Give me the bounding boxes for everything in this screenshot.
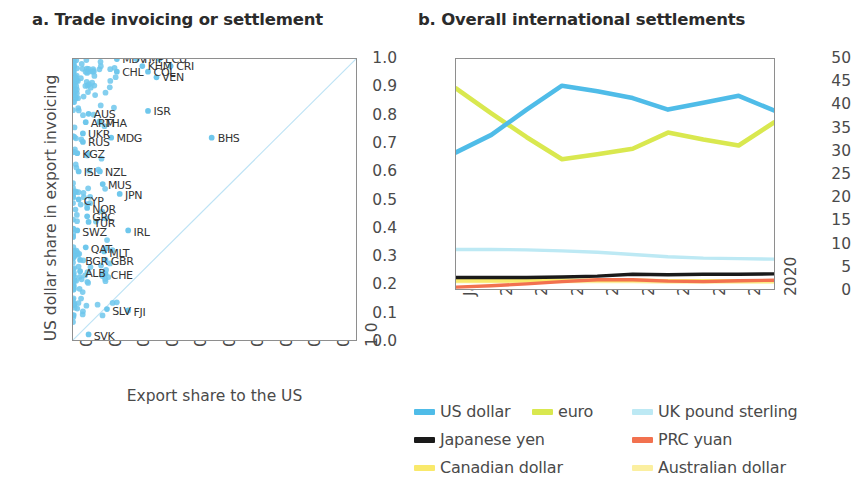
legend-item-prc-yuan[interactable]: PRC yuan — [632, 430, 732, 449]
panel-b-legend: US dollareuroUK pound sterlingJapanese y… — [414, 402, 779, 486]
scatter-point — [76, 300, 82, 306]
panel-a-y-axis-title: US dollar share in export invoicing — [42, 58, 60, 358]
scatter-point — [77, 257, 83, 263]
panel-b-x-tick: 2020 — [782, 257, 800, 296]
scatter-point — [80, 131, 86, 137]
scatter-point-label: FJI — [134, 306, 146, 319]
scatter-point — [117, 191, 123, 197]
scatter-point-label: GBR — [111, 255, 134, 268]
panel-a-x-axis-title: Export share to the US — [72, 387, 357, 405]
scatter-point — [73, 195, 76, 201]
legend-row: Canadian dollarAustralian dollar — [414, 458, 779, 486]
scatter-point — [73, 180, 76, 186]
line-series-group — [456, 86, 774, 287]
scatter-point — [85, 280, 91, 286]
scatter-point — [98, 63, 104, 69]
scatter-point — [107, 84, 113, 90]
scatter-point-label: JPN — [125, 188, 142, 201]
scatter-point — [100, 181, 106, 187]
scatter-point — [85, 89, 91, 95]
scatter-point-label: ISR — [154, 105, 171, 118]
scatter-point — [78, 75, 84, 81]
scatter-point — [83, 119, 89, 125]
scatter-point — [107, 78, 113, 84]
scatter-point — [85, 185, 91, 191]
scatter-point — [73, 207, 78, 213]
panel-b-line-svg — [456, 59, 774, 289]
scatter-point-label: CHL — [122, 65, 143, 78]
scatter-point — [209, 135, 215, 141]
legend-item-australian-dollar[interactable]: Australian dollar — [632, 458, 786, 477]
scatter-point-label: CHE — [111, 269, 133, 282]
panel-b-title: b. Overall international settlements — [418, 10, 745, 29]
scatter-point — [125, 228, 131, 234]
scatter-point — [77, 286, 83, 292]
panel-b-y-tick: 45 — [803, 72, 851, 90]
panel-b-y-tick: 5 — [803, 258, 851, 276]
legend-swatch-icon — [414, 437, 435, 443]
panel-b-international-settlements: b. Overall international settlements 504… — [400, 0, 779, 493]
scatter-point-label: ALB — [85, 266, 105, 279]
scatter-point — [83, 59, 89, 63]
panel-b-plot-area — [455, 58, 775, 290]
scatter-point — [84, 213, 90, 219]
legend-label: Japanese yen — [440, 430, 545, 449]
legend-label: US dollar — [440, 402, 510, 421]
scatter-point — [92, 92, 98, 98]
panel-b-y-tick: 20 — [803, 188, 851, 206]
scatter-point — [74, 218, 80, 224]
scatter-point — [83, 83, 89, 89]
scatter-point-label: IRL — [134, 225, 150, 238]
scatter-point — [103, 90, 109, 96]
scatter-point — [80, 139, 86, 145]
scatter-point-label: KGZ — [82, 147, 104, 160]
scatter-point — [90, 68, 96, 74]
legend-item-japanese-yen[interactable]: Japanese yen — [414, 430, 545, 449]
scatter-point — [79, 61, 85, 67]
scatter-point-label: SLV — [112, 304, 131, 317]
scatter-point-label: MDG — [116, 132, 142, 145]
scatter-point — [114, 69, 120, 75]
diagonal-reference-line — [73, 59, 356, 340]
scatter-point — [104, 306, 110, 312]
legend-swatch-icon — [632, 409, 653, 415]
panel-b-y-tick: 50 — [803, 49, 851, 67]
legend-item-euro[interactable]: euro — [532, 402, 593, 421]
legend-item-uk-pound-sterling[interactable]: UK pound sterling — [632, 402, 798, 421]
scatter-point — [73, 162, 79, 168]
legend-row: Japanese yenPRC yuan — [414, 430, 779, 458]
scatter-point — [114, 59, 120, 62]
legend-label: UK pound sterling — [658, 402, 798, 421]
scatter-point — [79, 276, 85, 282]
panel-a-trade-invoicing: a. Trade invoicing or settlement US doll… — [0, 0, 400, 493]
scatter-point — [76, 108, 82, 114]
scatter-point-label: BHS — [218, 132, 240, 145]
legend-row: US dollareuroUK pound sterling — [414, 402, 779, 430]
scatter-point — [86, 332, 92, 338]
scatter-point — [83, 244, 89, 250]
scatter-point — [107, 66, 113, 72]
scatter-point — [74, 306, 80, 312]
panel-b-y-tick: 0 — [803, 281, 851, 299]
legend-swatch-icon — [632, 437, 653, 443]
legend-label: Canadian dollar — [440, 458, 563, 477]
scatter-point — [81, 94, 87, 100]
panel-a-title: a. Trade invoicing or settlement — [32, 10, 323, 29]
scatter-point — [83, 69, 89, 75]
scatter-point — [103, 278, 109, 284]
panel-b-y-tick: 10 — [803, 235, 851, 253]
line-series — [456, 274, 774, 278]
panel-b-y-tick: 40 — [803, 95, 851, 113]
scatter-point — [76, 169, 82, 175]
legend-item-us-dollar[interactable]: US dollar — [414, 402, 510, 421]
scatter-point — [74, 212, 80, 218]
scatter-point-label: SVK — [94, 330, 115, 341]
panel-a-plot-area: MDVTMPECUKHMCRICOLVENCHLISRAUSARMTHAUKRR… — [72, 58, 357, 341]
legend-item-canadian-dollar[interactable]: Canadian dollar — [414, 458, 563, 477]
panel-b-y-tick: 25 — [803, 165, 851, 183]
scatter-point — [84, 303, 90, 309]
legend-swatch-icon — [632, 465, 653, 471]
scatter-point — [80, 308, 86, 314]
panel-b-y-tick: 30 — [803, 142, 851, 160]
scatter-point — [80, 112, 86, 118]
